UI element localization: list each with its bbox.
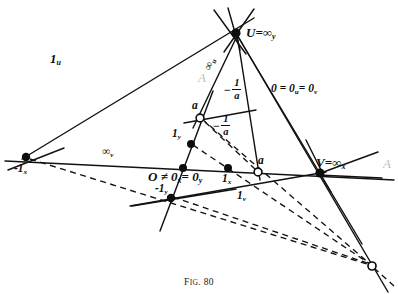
dashed-line-group [30,119,394,286]
fraction-minus-sign-upper: − [224,84,232,96]
label-point-U-text: U=∞y [246,25,276,40]
label-point-V: V=∞x [316,156,345,171]
label-fraction-minus-one-over-a-lower: − 1 a [213,114,230,137]
figure-caption: FIG. 80 [0,271,398,289]
ghost-mark-left: A [198,70,206,86]
point-1y[interactable] [187,140,195,148]
label-line-1u-text: 1u [50,51,61,66]
line-y-scale [160,91,213,231]
label-zero-u-v-text: 0 = 0u= 0v [271,82,317,94]
label-point-1y-text: 1y [172,127,181,139]
figure-80: U=∞y V=∞x -1x O ≠ 0x̄= 0y 1x 1y -1y a a … [0,0,398,294]
label-line-1v: 1v [237,190,246,203]
label-point-a-upper-text: a [192,99,198,111]
label-point-U: U=∞y [246,26,276,41]
point-minus-1x[interactable] [22,153,30,161]
label-point-minus-1y: -1y [155,183,168,196]
caption-smallcaps: IG [190,278,199,287]
fraction-numerator-lower: 1 [222,114,229,125]
solid-line-group [5,8,394,292]
label-point-minus-1x: -1x [14,163,27,176]
label-line-inf-v-text: ∞v [102,145,113,157]
label-point-minus-1x-text: -1x [14,162,27,174]
label-line-1u: 1u [50,52,61,67]
fraction-denominator-lower: a [222,126,229,137]
label-line-inf-v: ∞v [102,146,113,159]
point-a-upper[interactable] [196,114,204,122]
label-point-1x: 1x [222,173,231,186]
fraction-numerator-upper: 1 [233,78,240,89]
label-point-V-text: V=∞x [316,155,345,170]
label-line-1v-text: 1v [237,189,246,201]
fraction-denominator-upper: a [233,90,240,101]
label-point-1y: 1y [172,128,181,141]
point-far-intersection[interactable] [368,262,376,270]
point-U[interactable] [231,28,240,37]
line-1u-through-U [22,18,254,159]
caption-number: 80 [204,277,214,287]
ghost-mark-left-text: A [198,70,206,85]
ghost-mark-right: A [383,156,391,172]
point-a-lower[interactable] [254,168,262,176]
fraction-stack-lower: 1 a [221,114,230,137]
ghost-mark-right-text: A [383,156,391,171]
label-point-minus-1y-text: -1y [155,182,168,194]
line-minus1y-flat [132,189,236,206]
dash-a-upper-to-farpoint [202,119,370,264]
diagram-canvas [0,0,398,294]
label-point-a-lower-text: a [258,154,264,166]
point-minus-1y[interactable] [167,194,175,202]
line-U-to-a-lower [237,34,260,180]
label-point-a-upper: a [192,100,198,112]
label-point-1x-text: 1x [222,172,231,184]
label-fraction-minus-one-over-a-upper: − 1 a [224,78,241,101]
fraction-stack-upper: 1 a [232,78,241,101]
label-point-a-lower: a [258,155,264,167]
point-1x[interactable] [224,164,232,172]
point-group [22,28,376,270]
fraction-minus-sign-lower: − [213,120,221,132]
line-V-down-right [319,172,362,244]
label-zero-u-v: 0 = 0u= 0v [271,83,317,96]
